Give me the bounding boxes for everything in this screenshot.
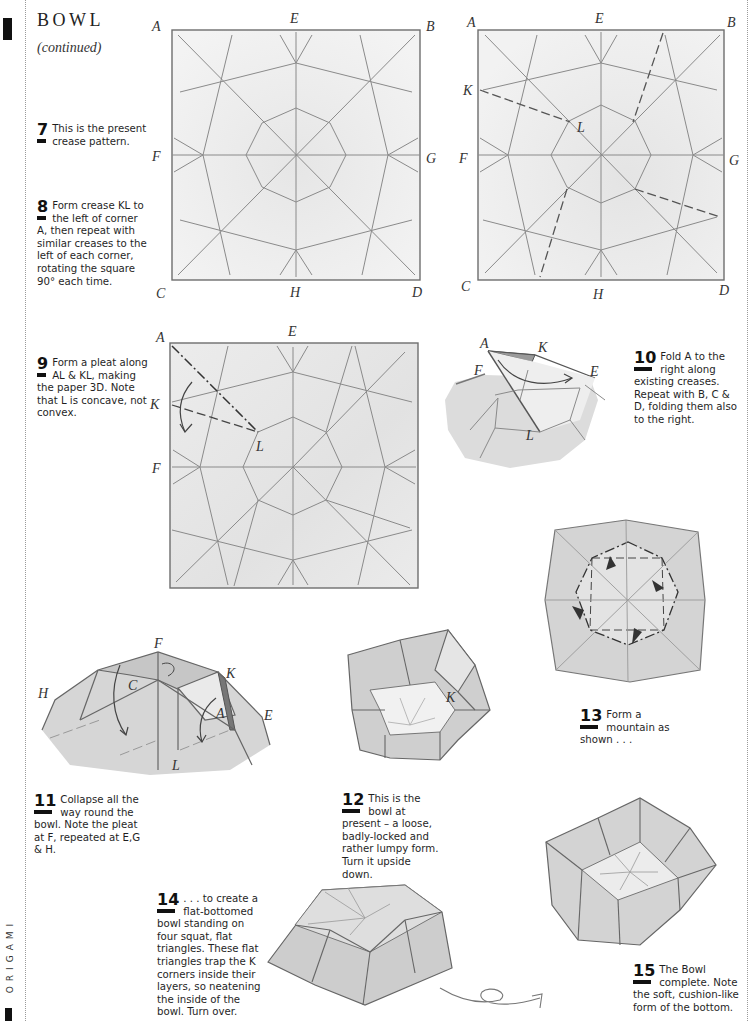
label-A: A: [151, 19, 161, 34]
step-bar: [37, 216, 46, 220]
label-F: F: [153, 636, 163, 651]
step-number: 12: [342, 793, 364, 807]
page-title: BOWL: [37, 10, 104, 31]
step-9-caption: 9 Form a pleat along AL & KL, making the…: [37, 357, 149, 420]
step-number: 7: [37, 123, 48, 137]
step-bar: [157, 909, 175, 913]
step-number: 15: [633, 964, 655, 978]
label-A: A: [479, 336, 489, 351]
label-C: C: [461, 279, 471, 294]
label-K: K: [537, 340, 548, 355]
step-14-caption: 14 . . . to create a flat-bottomed bowl …: [157, 893, 261, 1019]
step-text: Form a pleat along AL & KL, making the p…: [37, 357, 148, 418]
label-E: E: [594, 11, 604, 26]
label-E: E: [263, 708, 273, 723]
figure-7-crease-pattern: A E B F G C H D: [150, 5, 450, 305]
step-bar: [633, 980, 651, 984]
label-H: H: [592, 287, 604, 302]
label-K: K: [225, 666, 236, 681]
figure-8-crease-kl: A E B K L F G C H D: [455, 5, 755, 305]
label-K: K: [149, 397, 160, 412]
label-C: C: [128, 678, 138, 693]
figure-11-collapse: F K H C A E L: [30, 620, 310, 780]
label-L: L: [525, 428, 534, 443]
label-D: D: [411, 285, 422, 300]
page-subtitle: (continued): [37, 40, 102, 56]
label-E: E: [287, 324, 297, 339]
label-A: A: [155, 330, 165, 345]
label-L: L: [576, 120, 585, 135]
chapter-tab-marker-bottom: [5, 1008, 12, 1021]
step-bar: [634, 367, 652, 371]
step-number: 10: [634, 351, 656, 365]
label-L: L: [171, 758, 180, 773]
step-number: 9: [37, 357, 48, 371]
chapter-tab-marker-top: [3, 18, 12, 40]
label-F: F: [458, 151, 468, 166]
step-text: Form crease KL to the left of corner A, …: [37, 200, 147, 287]
step-number: 8: [37, 200, 48, 214]
label-G: G: [729, 153, 739, 168]
label-K: K: [445, 690, 456, 705]
label-E: E: [289, 11, 299, 26]
figure-10-fold-a-right: A K F E L: [440, 320, 620, 470]
step-number: 13: [580, 709, 602, 723]
step-7-caption: 7 This is the present crease pattern.: [37, 123, 149, 148]
step-10-caption: 10 Fold A to the right along existing cr…: [634, 351, 744, 427]
label-C: C: [156, 286, 166, 301]
label-F: F: [473, 363, 483, 378]
left-margin-dotted-rule: [25, 0, 26, 1021]
label-L: L: [255, 439, 264, 454]
label-F: F: [151, 149, 161, 164]
label-E: E: [589, 364, 599, 379]
figure-9-pleat: A E K F L: [140, 320, 450, 600]
step-bar: [34, 810, 52, 814]
step-bar: [580, 725, 598, 729]
figure-13-mountain-folds: [540, 510, 720, 690]
step-12-caption: 12 This is the bowl at present – a loose…: [342, 793, 442, 881]
label-K: K: [462, 83, 473, 98]
label-A: A: [215, 706, 225, 721]
step-number: 14: [157, 893, 179, 907]
figure-14-upside-down-bowl: [260, 880, 560, 1021]
step-bar: [342, 809, 360, 813]
label-B: B: [727, 15, 736, 30]
step-text: This is the present crease pattern.: [52, 123, 146, 147]
step-13-caption: 13 Form a mountain as shown . . .: [580, 709, 680, 747]
label-F: F: [151, 461, 161, 476]
label-H: H: [37, 686, 49, 701]
label-G: G: [426, 151, 436, 166]
label-D: D: [718, 283, 729, 298]
step-8-caption: 8 Form crease KL to the left of corner A…: [37, 200, 149, 288]
figure-12-loose-bowl: K: [330, 610, 530, 780]
label-H: H: [289, 285, 301, 300]
label-A: A: [466, 15, 476, 30]
running-side-label: ORIGAMI: [0, 912, 20, 1000]
label-B: B: [426, 19, 435, 34]
step-number: 11: [34, 794, 56, 808]
step-15-caption: 15 The Bowl complete. Note the soft, cus…: [633, 964, 743, 1014]
figure-15-bowl-complete: [540, 790, 720, 960]
step-11-caption: 11 Collapse all the way round the bowl. …: [34, 794, 146, 857]
step-bar: [37, 139, 46, 143]
step-bar: [37, 373, 46, 377]
